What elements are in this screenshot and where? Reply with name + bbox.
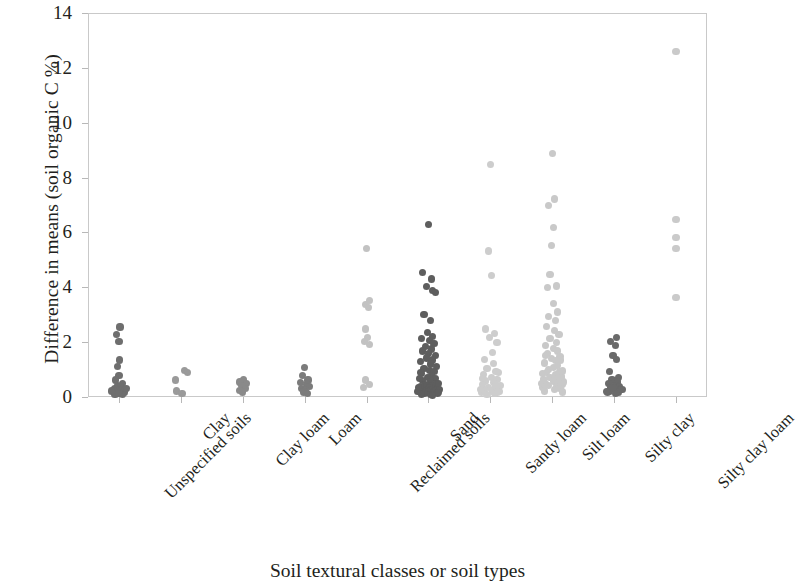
x-axis-title: Soil textural classes or soil types [88, 560, 707, 582]
x-tick-mark [119, 397, 120, 403]
y-tick-label: 10 [30, 113, 72, 132]
x-tick-mark [243, 397, 244, 403]
x-tick-mark [614, 397, 615, 403]
y-tick-mark [82, 342, 88, 343]
y-tick-label: 14 [30, 3, 72, 22]
x-tick-label-silty-clay: Silty clay [642, 409, 698, 465]
plot-area [88, 13, 707, 397]
x-tick-label-loam: Loam [325, 409, 364, 448]
y-tick-label: 6 [30, 222, 72, 241]
y-tick-label: 0 [30, 387, 72, 406]
y-tick-label: 2 [30, 332, 72, 351]
x-tick-mark [676, 397, 677, 403]
x-tick-mark [367, 397, 368, 403]
y-tick-mark [82, 123, 88, 124]
y-tick-mark [82, 68, 88, 69]
y-tick-mark [82, 13, 88, 14]
y-tick-mark [82, 287, 88, 288]
y-tick-label: 8 [30, 168, 72, 187]
y-tick-label: 4 [30, 277, 72, 296]
x-tick-mark [552, 397, 553, 403]
x-tick-label-silty-clay-loam: Silty clay loam [714, 409, 797, 492]
x-tick-label-sandy-loam: Sandy loam [522, 409, 589, 476]
x-tick-mark [490, 397, 491, 403]
x-tick-mark [428, 397, 429, 403]
y-tick-label: 12 [30, 58, 72, 77]
x-tick-label-clay-loam: Clay loam [272, 409, 332, 469]
x-tick-mark [181, 397, 182, 403]
x-tick-label-silt-loam: Silt loam [579, 409, 633, 463]
y-tick-mark [82, 178, 88, 179]
y-tick-mark [82, 397, 88, 398]
y-tick-mark [82, 232, 88, 233]
x-tick-mark [305, 397, 306, 403]
